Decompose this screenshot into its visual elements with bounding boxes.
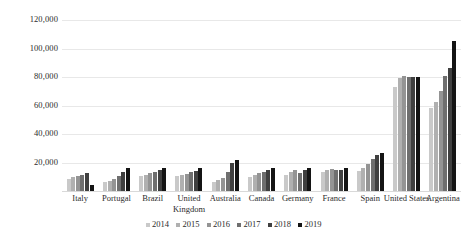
bar [121, 172, 125, 191]
bar [330, 169, 334, 191]
plot-area [62, 20, 461, 191]
bar [108, 181, 112, 191]
bar [284, 175, 288, 191]
legend-label: 2016 [213, 220, 230, 229]
bar [429, 108, 433, 191]
legend-label: 2019 [305, 220, 322, 229]
bar [357, 171, 361, 191]
y-axis-tick-label: 120,000 [0, 15, 58, 24]
x-axis-labels: ItalyPortugalBrazilUnited KingdomAustral… [62, 193, 461, 219]
bar [248, 177, 252, 191]
bar [162, 168, 166, 191]
bar [448, 68, 452, 191]
y-axis-tick-label: 40,000 [0, 129, 58, 138]
legend-item[interactable]: 2018 [268, 220, 292, 229]
legend-swatch [298, 223, 302, 227]
bar [452, 41, 456, 191]
bar-cluster [135, 20, 171, 191]
bar [434, 102, 438, 191]
legend-item[interactable]: 2016 [207, 220, 231, 229]
bar-cluster [425, 20, 461, 191]
bar [71, 177, 75, 191]
bar [439, 91, 443, 191]
bar [221, 178, 225, 191]
bar [325, 170, 329, 191]
chart-legend: 201420152016201720182019 [0, 220, 467, 229]
bar [103, 182, 107, 191]
bar [293, 170, 297, 191]
bar [112, 179, 116, 191]
bar [361, 168, 365, 192]
bar [230, 163, 234, 191]
bar [262, 172, 266, 191]
bar-cluster [352, 20, 388, 191]
legend-swatch [207, 223, 211, 227]
y-axis-labels: 20,00040,00060,00080,000100,000120,000 [0, 0, 58, 238]
bar [185, 174, 189, 191]
legend-label: 2018 [274, 220, 291, 229]
axis-baseline [62, 191, 461, 192]
bar [90, 185, 94, 191]
bar [139, 176, 143, 191]
bar [416, 77, 420, 191]
bar [339, 170, 343, 191]
bar [80, 175, 84, 191]
bar [289, 172, 293, 191]
bar [175, 176, 179, 191]
bar [380, 153, 384, 191]
legend-label: 2015 [183, 220, 200, 229]
bar [117, 176, 121, 191]
bar [398, 78, 402, 191]
bar [307, 168, 311, 191]
bar-cluster [98, 20, 134, 191]
bar-cluster [62, 20, 98, 191]
bar [153, 172, 157, 191]
bar-cluster [316, 20, 352, 191]
bar [67, 179, 71, 191]
bar [407, 77, 411, 191]
bar [266, 170, 270, 191]
bar-cluster [207, 20, 243, 191]
bar [226, 172, 230, 191]
legend-item[interactable]: 2017 [237, 220, 261, 229]
x-axis-tick-label: Argentina [419, 193, 467, 204]
bar [158, 170, 162, 191]
bar-chart: 20,00040,00060,00080,000100,000120,000 I… [0, 0, 467, 238]
bar-cluster [280, 20, 316, 191]
bar [85, 173, 89, 191]
legend-swatch [237, 223, 241, 227]
y-axis-tick-label: 20,000 [0, 158, 58, 167]
legend-swatch [176, 223, 180, 227]
bar [393, 87, 397, 191]
bar [212, 182, 216, 191]
bar [76, 176, 80, 191]
bar [298, 173, 302, 191]
legend-swatch [268, 223, 272, 227]
bar [253, 175, 257, 191]
bar [366, 164, 370, 191]
legend-item[interactable]: 2019 [298, 220, 322, 229]
y-axis-tick-label: 100,000 [0, 44, 58, 53]
bar [189, 172, 193, 191]
bar [375, 155, 379, 191]
bar [257, 173, 261, 191]
bar [443, 76, 447, 191]
y-axis-tick-label: 60,000 [0, 101, 58, 110]
bar [321, 172, 325, 191]
legend-item[interactable]: 2014 [146, 220, 170, 229]
bar [371, 159, 375, 191]
bar [198, 168, 202, 192]
bar [144, 175, 148, 191]
legend-swatch [146, 223, 150, 227]
bar [271, 168, 275, 192]
bar-cluster [171, 20, 207, 191]
bar [411, 77, 415, 191]
bar [402, 76, 406, 191]
legend-label: 2014 [152, 220, 169, 229]
bar [126, 168, 130, 192]
legend-item[interactable]: 2015 [176, 220, 200, 229]
bar [334, 170, 338, 191]
bar [148, 173, 152, 191]
y-axis-tick-label: 80,000 [0, 72, 58, 81]
bar [303, 170, 307, 191]
